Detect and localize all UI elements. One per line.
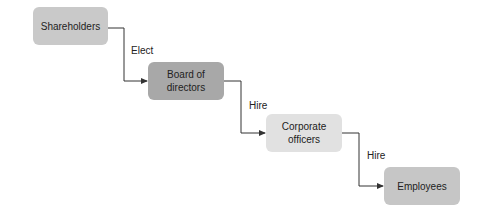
node-corporate-officers: Corporate officers — [266, 114, 342, 152]
edge-label-hire-1: Hire — [249, 100, 267, 111]
node-label-line2: officers — [288, 133, 320, 146]
node-label-line1: Corporate — [282, 120, 326, 133]
node-board: Board of directors — [148, 62, 224, 100]
node-label-line1: Board of — [167, 68, 205, 81]
node-label-line2: directors — [167, 81, 205, 94]
node-label: Employees — [397, 180, 446, 193]
node-label: Shareholders — [41, 20, 100, 33]
edge-label-hire-2: Hire — [367, 150, 385, 161]
node-shareholders: Shareholders — [33, 7, 108, 45]
node-employees: Employees — [384, 167, 460, 205]
edge-label-elect: Elect — [131, 45, 153, 56]
